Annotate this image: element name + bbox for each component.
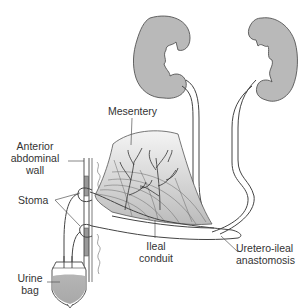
label-uretero-ileal-anastomosis: Uretero-ileal anastomosis — [236, 242, 308, 266]
label-line: bag — [14, 284, 46, 296]
label-line: Ileal — [134, 240, 178, 252]
label-line: Uretero-ileal — [236, 242, 308, 254]
label-line: abdominal — [2, 152, 68, 164]
label-line: Urine — [14, 272, 46, 284]
drainage-tube — [64, 194, 80, 262]
left-kidney — [133, 16, 190, 98]
label-anterior-abdominal-wall: Anterior abdominal wall — [2, 140, 68, 176]
label-mesentery: Mesentery — [108, 105, 157, 117]
label-line: anastomosis — [236, 254, 308, 266]
ileal-conduit-diagram: Mesentery Anterior abdominal wall Stoma … — [0, 0, 308, 308]
leader-stoma-1 — [55, 193, 80, 200]
label-line: Anterior — [2, 140, 68, 152]
abdominal-wall — [84, 158, 100, 282]
mesentery — [95, 131, 212, 225]
label-urine-bag: Urine bag — [14, 272, 46, 296]
right-kidney — [248, 18, 297, 101]
leader-stoma-2 — [55, 200, 80, 226]
label-line: wall — [2, 164, 68, 176]
label-ileal-conduit: Ileal conduit — [134, 240, 178, 264]
label-stoma: Stoma — [18, 194, 48, 206]
label-line: conduit — [134, 252, 178, 264]
